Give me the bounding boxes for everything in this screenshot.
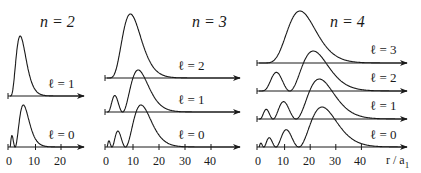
tick-n3-40: 40 xyxy=(204,154,216,168)
tick-n2-0: 0 xyxy=(6,154,12,168)
radial-probability-chart: n = 2 ℓ = 1 ℓ = 0 0 10 20 n = 3 ℓ = 2 ℓ … xyxy=(0,0,421,173)
tick-n3-10: 10 xyxy=(127,154,139,168)
tick-n4-40: 40 xyxy=(354,154,366,168)
label-n4-l0: ℓ = 0 xyxy=(370,127,397,142)
panel-n3 xyxy=(105,14,240,150)
x-axis-label: r / a1 xyxy=(386,153,409,170)
tick-n2-20: 20 xyxy=(54,154,66,168)
label-n2-l0: ℓ = 0 xyxy=(48,127,75,142)
label-n4-l1: ℓ = 1 xyxy=(370,98,397,113)
tick-n4-30: 30 xyxy=(329,154,341,168)
label-n4-l3: ℓ = 3 xyxy=(370,42,397,57)
tick-n3-0: 0 xyxy=(103,154,109,168)
label-n3-l0: ℓ = 0 xyxy=(178,127,205,142)
tick-n3-30: 30 xyxy=(179,154,191,168)
panel-title-n3: n = 3 xyxy=(192,13,227,30)
label-n3-l1: ℓ = 1 xyxy=(178,92,205,107)
tick-n3-20: 20 xyxy=(153,154,165,168)
tick-n4-10: 10 xyxy=(277,154,289,168)
panel-title-n2: n = 2 xyxy=(40,13,75,30)
tick-n2-10: 10 xyxy=(28,154,40,168)
label-n4-l2: ℓ = 2 xyxy=(370,70,397,85)
curve-n3-l1 xyxy=(107,70,240,112)
label-n2-l1: ℓ = 1 xyxy=(48,76,75,91)
label-n3-l2: ℓ = 2 xyxy=(178,58,205,73)
tick-n4-20: 20 xyxy=(303,154,315,168)
tick-n4-0: 0 xyxy=(255,154,261,168)
panel-title-n4: n = 4 xyxy=(330,13,365,30)
